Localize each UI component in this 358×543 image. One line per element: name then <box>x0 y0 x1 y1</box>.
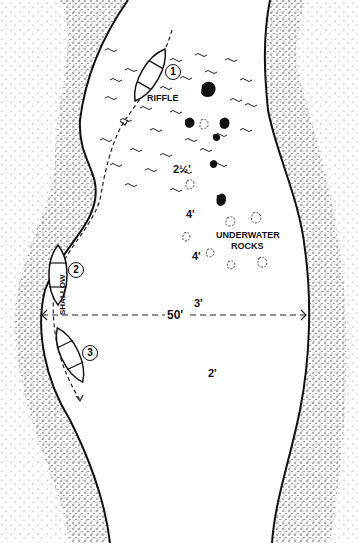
river-diagram: 1 2 3 RIFFLE UNDERWATER ROCKS SHALLOW 2½… <box>0 0 358 543</box>
riffle-label: RIFFLE <box>147 93 179 103</box>
right-riverbank <box>265 0 358 543</box>
boat-marker-2: 2 <box>68 262 84 278</box>
depth-label: 3' <box>194 297 203 309</box>
width-label: 50' <box>167 308 183 322</box>
underwater-rocks-label-1: UNDERWATER <box>216 230 280 240</box>
shallow-label: SHALLOW <box>58 275 67 315</box>
river-illustration <box>0 0 358 543</box>
depth-label: 4' <box>192 250 201 262</box>
underwater-rocks-label-2: ROCKS <box>231 241 264 251</box>
exposed-rocks <box>185 82 230 206</box>
boat-marker-3: 3 <box>82 345 98 361</box>
depth-label: 2½' <box>173 163 191 175</box>
depth-label: 2' <box>208 367 217 379</box>
route-arrow-icon <box>76 395 83 401</box>
boat-marker-1: 1 <box>165 64 181 80</box>
depth-label: 4' <box>186 208 195 220</box>
